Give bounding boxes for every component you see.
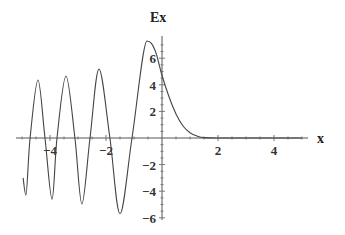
y-axis-label: Ex bbox=[150, 10, 166, 25]
x-tick-label: 4 bbox=[271, 143, 278, 158]
y-tick-label: 6 bbox=[150, 51, 157, 66]
y-tick-label: −4 bbox=[142, 184, 156, 199]
y-tick-label: 2 bbox=[150, 104, 157, 119]
y-tick-label: −2 bbox=[142, 158, 156, 173]
y-tick-label: 4 bbox=[150, 78, 157, 93]
x-tick-label: 2 bbox=[215, 143, 222, 158]
y-tick-label: −6 bbox=[142, 211, 156, 226]
chart: −4−224−6−4−2246 x Ex bbox=[0, 0, 345, 235]
x-axis-label: x bbox=[317, 131, 324, 146]
ex-curve bbox=[23, 41, 302, 214]
